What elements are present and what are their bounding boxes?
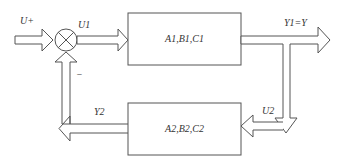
block-1-label: A1,B1,C1	[128, 33, 241, 44]
output-arrow	[241, 27, 330, 133]
feedback-arrow	[55, 52, 128, 141]
output-label: Y1=Y	[284, 18, 307, 28]
summing-junction	[55, 29, 77, 51]
y2-label: Y2	[94, 107, 105, 117]
feedback-sign: −	[76, 70, 83, 80]
u1-arrow	[77, 29, 128, 51]
block-2-label: A2,B2,C2	[128, 123, 241, 134]
input-arrow	[15, 29, 53, 51]
input-label: U+	[20, 16, 34, 26]
u1-label: U1	[78, 20, 90, 30]
u2-label: U2	[262, 106, 274, 116]
block-diagram: U+ U1 − A1,B1,C1 Y1=Y U2 A2,B2,C2 Y2	[0, 0, 339, 167]
